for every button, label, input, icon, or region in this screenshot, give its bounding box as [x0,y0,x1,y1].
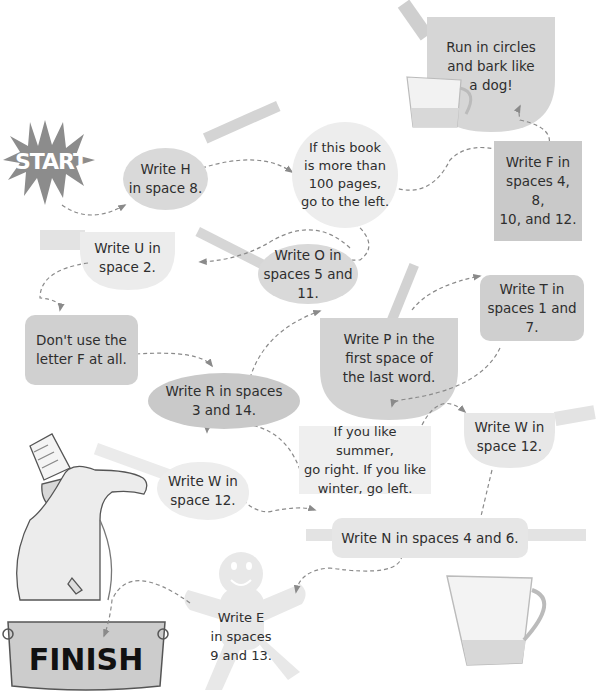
step-write-t: Write T in spaces 1 and 7. [480,275,584,341]
step-write-r: Write R in spaces 3 and 14. [148,373,300,429]
step-text: Write N in spaces 4 and 6. [341,529,518,548]
step-text: Write E in spaces 9 and 13. [210,608,272,665]
step-text: Write W in space 12. [168,472,238,510]
step-dont-use-f: Don't use the letter F at all. [25,315,138,385]
step-write-u: Write U in space 2. [80,232,175,284]
step-text: Write U in space 2. [94,239,160,277]
step-text: Write W in space 12. [475,418,545,456]
step-text: Don't use the letter F at all. [36,331,127,369]
step-text: Write T in spaces 1 and 7. [484,280,580,337]
step-write-o: Write O in spaces 5 and 11. [258,244,358,304]
step-text: Write R in spaces 3 and 14. [166,382,283,420]
step-write-e: Write E in spaces 9 and 13. [200,604,282,668]
start-label: START [3,148,99,174]
step-text: Write P in the first space of the last w… [343,330,436,387]
step-text: If you like summer, go right. If you lik… [303,422,427,498]
step-write-f: Write F in spaces 4, 8, 10, and 12. [494,141,582,241]
step-summer-winter: If you like summer, go right. If you lik… [299,426,431,494]
step-book-pages: If this book is more than 100 pages, go … [292,122,398,228]
step-write-n: Write N in spaces 4 and 6. [332,518,528,558]
step-text: Write F in spaces 4, 8, 10, and 12. [498,153,578,229]
step-write-p: Write P in the first space of the last w… [320,318,458,398]
step-text: If this book is more than 100 pages, go … [301,139,389,211]
step-text: Run in circles and bark like a dog! [446,38,536,95]
step-run-circles: Run in circles and bark like a dog! [427,20,555,112]
finish-label: FINISH [8,640,164,678]
step-text: Write H in space 8. [129,160,202,198]
measuring-cup-large-icon [447,576,544,665]
step-text: Write O in spaces 5 and 11. [262,246,354,303]
step-write-h: Write H in space 8. [123,148,208,210]
step-write-w-right: Write W in space 12. [464,413,555,461]
